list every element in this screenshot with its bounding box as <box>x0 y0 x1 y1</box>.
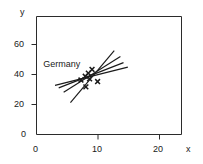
x-tick-label-0: 0 <box>33 145 38 154</box>
plot-frame <box>37 17 182 135</box>
y-tick-label-0: 0 <box>21 130 26 139</box>
y-tick-label-40: 40 <box>14 70 24 79</box>
chart-figure: 60 40 20 0 0 10 20 y x Germany <box>0 0 203 164</box>
scatter-marker <box>95 79 100 84</box>
y-axis-ticks <box>32 45 37 105</box>
x-axis-label: x <box>186 145 191 154</box>
y-tick-label-20: 20 <box>14 100 24 109</box>
scatter-plot-canvas <box>0 0 203 164</box>
y-axis-label: y <box>20 8 25 17</box>
scatter-marker <box>90 67 95 72</box>
annotation-germany: Germany <box>43 60 80 69</box>
y-tick-label-60: 60 <box>14 40 24 49</box>
x-tick-label-10: 10 <box>92 145 102 154</box>
x-axis-ticks <box>98 135 160 140</box>
x-tick-label-20: 20 <box>153 145 163 154</box>
